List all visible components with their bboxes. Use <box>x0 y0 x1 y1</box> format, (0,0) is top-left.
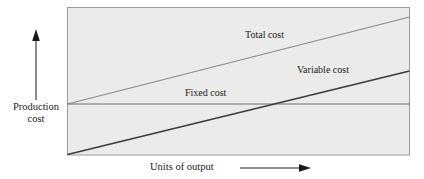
total-cost-label: Total cost <box>245 29 284 40</box>
y-axis-label-line-2: cost <box>0 113 72 125</box>
x-axis-arrow-icon <box>240 164 311 172</box>
y-axis-arrow-icon <box>32 29 40 100</box>
y-axis-label: Production cost <box>0 101 72 125</box>
y-axis-label-line-1: Production <box>0 101 72 113</box>
fixed-cost-label: Fixed cost <box>185 87 226 98</box>
variable-cost-label: Variable cost <box>297 64 349 75</box>
x-axis-label: Units of output <box>150 161 214 173</box>
cost-behavior-chart-figure: Production cost Units of output Total co… <box>0 0 424 179</box>
